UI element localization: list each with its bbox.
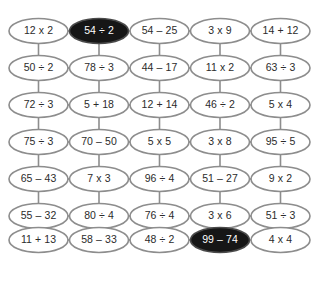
maze-cell[interactable]: 44 – 17: [130, 56, 189, 81]
cell-label: 80 ÷ 4: [84, 209, 114, 221]
maze-grid-svg: 12 x 254 ÷ 254 – 253 x 914 + 1250 ÷ 278 …: [0, 0, 330, 306]
maze-cell[interactable]: 5 x 4: [251, 93, 310, 118]
cell-label: 96 ÷ 4: [145, 172, 175, 184]
cell-label: 55 – 32: [21, 209, 57, 221]
cell-label: 3 x 8: [208, 135, 231, 147]
maze-cell[interactable]: 51 ÷ 3: [251, 204, 310, 229]
maze-cell[interactable]: 76 ÷ 4: [130, 204, 189, 229]
cell-label: 5 x 4: [269, 98, 292, 110]
maze-cell[interactable]: 5 + 18: [70, 93, 129, 118]
cell-label: 75 ÷ 3: [24, 135, 54, 147]
cell-label: 54 – 25: [142, 24, 178, 36]
cell-label: 48 ÷ 2: [145, 233, 175, 245]
maze-cell[interactable]: 70 – 50: [70, 130, 129, 155]
cell-label: 99 – 74: [202, 233, 238, 245]
maze-cell[interactable]: 99 – 74: [191, 228, 250, 253]
cell-label: 95 ÷ 5: [266, 135, 296, 147]
maze-cell[interactable]: 58 – 33: [70, 228, 129, 253]
maze-cell[interactable]: 48 ÷ 2: [130, 228, 189, 253]
cell-label: 46 ÷ 2: [205, 98, 235, 110]
cell-label: 70 – 50: [81, 135, 117, 147]
maze-cell[interactable]: 12 x 2: [9, 19, 68, 44]
cell-label: 12 + 14: [141, 98, 177, 110]
maze-grid-container: 12 x 254 ÷ 254 – 253 x 914 + 1250 ÷ 278 …: [0, 0, 330, 306]
cell-label: 63 ÷ 3: [266, 61, 296, 73]
maze-cell[interactable]: 50 ÷ 2: [9, 56, 68, 81]
cell-label: 58 – 33: [81, 233, 117, 245]
maze-cell[interactable]: 7 x 3: [70, 167, 129, 192]
maze-cell[interactable]: 12 + 14: [130, 93, 189, 118]
maze-cell[interactable]: 11 + 13: [9, 228, 68, 253]
maze-cell[interactable]: 9 x 2: [251, 167, 310, 192]
maze-cell[interactable]: 11 x 2: [191, 56, 250, 81]
cell-label: 11 x 2: [206, 61, 234, 73]
maze-cell[interactable]: 80 ÷ 4: [70, 204, 129, 229]
maze-cell[interactable]: 46 ÷ 2: [191, 93, 250, 118]
cell-label: 50 ÷ 2: [24, 61, 54, 73]
cell-label: 9 x 2: [269, 172, 292, 184]
maze-cell[interactable]: 63 ÷ 3: [251, 56, 310, 81]
maze-cell[interactable]: 14 + 12: [251, 19, 310, 44]
maze-cell[interactable]: 95 ÷ 5: [251, 130, 310, 155]
cell-label: 44 – 17: [142, 61, 178, 73]
cell-label: 76 ÷ 4: [145, 209, 175, 221]
maze-cell[interactable]: 78 ÷ 3: [70, 56, 129, 81]
cell-label: 3 x 6: [208, 209, 231, 221]
cell-label: 78 ÷ 3: [84, 61, 114, 73]
cell-label: 51 ÷ 3: [266, 209, 296, 221]
maze-cell[interactable]: 55 – 32: [9, 204, 68, 229]
maze-cell[interactable]: 54 – 25: [130, 19, 189, 44]
maze-cell[interactable]: 72 ÷ 3: [9, 93, 68, 118]
cell-label: 7 x 3: [87, 172, 110, 184]
cell-label: 51 – 27: [202, 172, 238, 184]
cell-label: 72 ÷ 3: [24, 98, 54, 110]
cell-label: 65 – 43: [21, 172, 57, 184]
cell-label: 54 ÷ 2: [84, 24, 114, 36]
maze-cell[interactable]: 96 ÷ 4: [130, 167, 189, 192]
maze-cell[interactable]: 3 x 6: [191, 204, 250, 229]
cell-label: 12 x 2: [24, 24, 53, 36]
maze-cell[interactable]: 65 – 43: [9, 167, 68, 192]
cell-label: 5 x 5: [148, 135, 171, 147]
cell-label: 14 + 12: [262, 24, 298, 36]
maze-cell[interactable]: 4 x 4: [251, 228, 310, 253]
maze-cell[interactable]: 3 x 9: [191, 19, 250, 44]
maze-cell[interactable]: 3 x 8: [191, 130, 250, 155]
cell-label: 5 + 18: [84, 98, 114, 110]
maze-cell[interactable]: 54 ÷ 2: [70, 19, 129, 44]
cell-label: 4 x 4: [269, 233, 292, 245]
maze-cell[interactable]: 5 x 5: [130, 130, 189, 155]
maze-cell[interactable]: 75 ÷ 3: [9, 130, 68, 155]
maze-cell[interactable]: 51 – 27: [191, 167, 250, 192]
cell-label: 11 + 13: [21, 233, 56, 245]
cell-label: 3 x 9: [208, 24, 231, 36]
